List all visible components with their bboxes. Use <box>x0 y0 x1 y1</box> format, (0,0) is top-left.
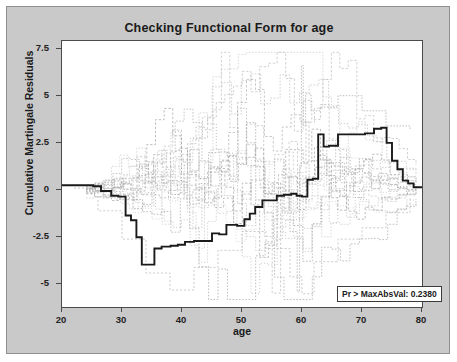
chart-panel: Checking Functional Form for age Cumulat… <box>6 6 450 354</box>
y-axis-label: Cumulative Martingale Residuals <box>23 33 35 233</box>
chart-screenshot: Checking Functional Form for age Cumulat… <box>0 0 457 362</box>
y-tick-label: -2.5 <box>15 230 49 241</box>
legend-pvalue-text: Pr > MaxAbsVal: 0.2380 <box>342 289 437 299</box>
y-tick-label: 0 <box>15 183 49 194</box>
y-tick-label: 2.5 <box>15 136 49 147</box>
chart-title: Checking Functional Form for age <box>7 21 451 35</box>
x-tick-label: 60 <box>284 314 318 325</box>
y-tick-label: -5 <box>15 277 49 288</box>
x-tick-label: 40 <box>164 314 198 325</box>
legend-pvalue-box: Pr > MaxAbsVal: 0.2380 <box>337 286 442 302</box>
plot-area <box>61 40 423 308</box>
residual-paths-svg <box>62 41 422 307</box>
x-tick-label: 50 <box>224 314 258 325</box>
simulated-residual-path <box>86 52 416 248</box>
x-tick-label: 70 <box>344 314 378 325</box>
x-tick-label: 80 <box>404 314 438 325</box>
x-tick-label: 20 <box>44 314 78 325</box>
x-axis-label: age <box>61 325 423 337</box>
y-tick-label: 5 <box>15 89 49 100</box>
x-tick-label: 30 <box>104 314 138 325</box>
y-tick-label: 7.5 <box>15 42 49 53</box>
